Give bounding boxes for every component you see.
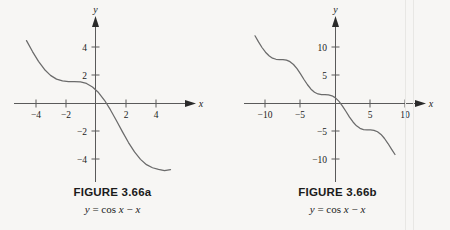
figure-b: −10 −5 5 10 10 5 −5 −10 x y FIGURE 3.66b… (225, 0, 450, 230)
figure-a: −4 −2 2 4 4 2 −2 −4 x y FIGURE 3.66a y =… (0, 0, 225, 230)
curve-cos-x-minus-x (27, 41, 171, 171)
figure-b-caption-title: FIGURE 3.66b (225, 186, 450, 198)
x-tick-label: −4 (31, 110, 41, 120)
figure-a-caption-formula: y = cos x − x (0, 203, 225, 215)
figure-pair: −4 −2 2 4 4 2 −2 −4 x y FIGURE 3.66a y =… (0, 0, 450, 230)
y-tick-label: 2 (82, 71, 87, 81)
formula-term: x (360, 203, 365, 215)
x-axis-label: x (428, 98, 434, 109)
y-tick-label: 10 (318, 43, 328, 53)
figure-b-plot: −10 −5 5 10 10 5 −5 −10 x y (225, 0, 450, 192)
x-tick-label: 5 (368, 110, 373, 120)
y-tick-label: −2 (77, 127, 87, 137)
y-tick-label: 4 (82, 43, 87, 53)
x-axis-label: x (198, 98, 204, 109)
y-tick-label: 5 (322, 71, 327, 81)
figure-a-axes (14, 16, 196, 182)
figure-a-caption-title: FIGURE 3.66a (0, 186, 225, 198)
y-axis-label: y (92, 4, 98, 15)
y-tick-label: −10 (312, 155, 327, 165)
scan-artifact-line (413, 0, 414, 230)
figure-a-plot: −4 −2 2 4 4 2 −2 −4 x y (0, 0, 225, 192)
y-tick-label: −5 (317, 127, 327, 137)
curve-cos-x-minus-x (255, 36, 395, 155)
x-tick-label: −2 (61, 110, 71, 120)
x-tick-label: 4 (154, 110, 159, 120)
x-tick-label: −10 (258, 110, 273, 120)
formula-function: cos (326, 203, 341, 215)
y-tick-label: −4 (77, 155, 87, 165)
y-axis-label: y (332, 4, 338, 15)
formula-term: x (135, 203, 140, 215)
x-tick-label: 2 (124, 110, 129, 120)
formula-function: cos (101, 203, 116, 215)
x-tick-label: −5 (295, 110, 305, 120)
figure-b-axes (244, 16, 426, 182)
scan-artifact-line (405, 0, 406, 230)
figure-b-caption-formula: y = cos x − x (225, 203, 450, 215)
